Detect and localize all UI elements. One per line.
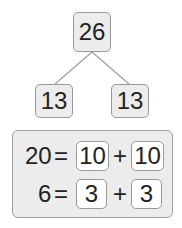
addend-box: 10 <box>76 141 109 171</box>
right-child-node: 13 <box>111 84 149 118</box>
equation-row-2: 6 = 3 + 3 <box>13 176 172 212</box>
equations-panel: 20 = 10 + 10 6 = 3 + 3 <box>12 130 173 218</box>
addend-box: 3 <box>131 179 162 209</box>
equation-total: 6 <box>38 176 51 212</box>
equation-row-1: 20 = 10 + 10 <box>13 138 172 174</box>
plus-sign: + <box>113 176 127 212</box>
equals-sign: = <box>54 176 68 212</box>
addend-box: 10 <box>131 141 164 171</box>
addend-box: 3 <box>76 179 107 209</box>
plus-sign: + <box>113 138 127 174</box>
root-node: 26 <box>73 12 111 52</box>
equation-total: 20 <box>25 138 52 174</box>
equals-sign: = <box>54 138 68 174</box>
left-child-node: 13 <box>35 84 73 118</box>
